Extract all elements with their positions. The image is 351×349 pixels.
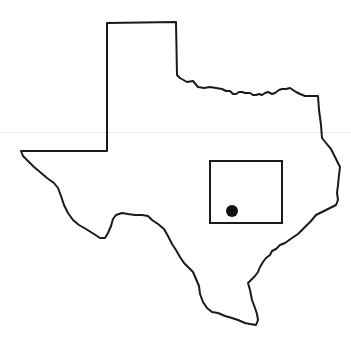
- texas-outline: [21, 22, 340, 325]
- location-marker: [226, 205, 238, 217]
- texas-map: [0, 0, 351, 349]
- inset-box: [210, 161, 282, 223]
